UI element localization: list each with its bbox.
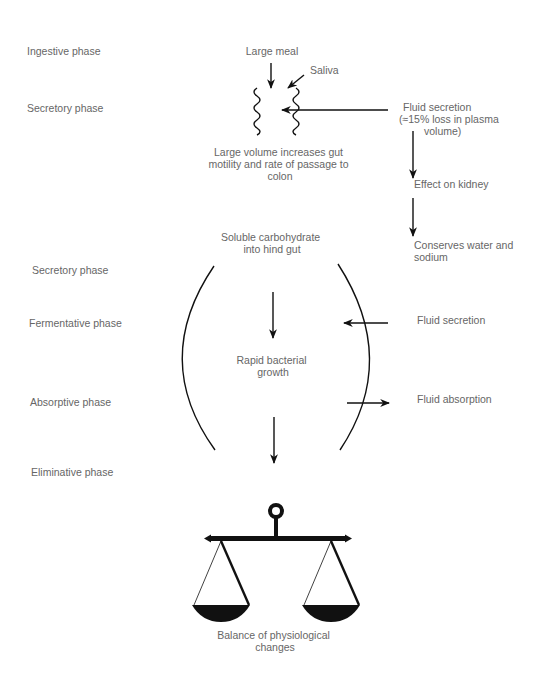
saliva-arrow xyxy=(288,75,304,88)
large-volume-label: Large volume increases gut motility and … xyxy=(208,146,351,182)
conserves-label: Conserves water and sodium xyxy=(414,239,516,263)
fluid-absorption-label: Fluid absorption xyxy=(417,393,492,405)
phase-label-absorptive: Absorptive phase xyxy=(30,396,111,408)
balance-label: Balance of physiological changes xyxy=(217,629,333,653)
fluid-secretion-top-label: Fluid secretion (≈15% loss in plasma vol… xyxy=(399,101,502,137)
soluble-carbohydrate-label: Soluble carbohydrate into hind gut xyxy=(221,231,323,255)
hindgut-wall-right xyxy=(338,264,370,450)
phase-label-secretory-1: Secretory phase xyxy=(27,102,104,114)
gut-wall-right-icon xyxy=(293,88,299,135)
hindgut-wall-left xyxy=(182,266,215,450)
effect-on-kidney-label: Effect on kidney xyxy=(414,178,489,190)
phase-label-secretory-2: Secretory phase xyxy=(32,264,109,276)
large-meal-label: Large meal xyxy=(246,45,299,57)
rapid-growth-label: Rapid bacterial growth xyxy=(237,354,310,378)
phase-label-eliminative: Eliminative phase xyxy=(31,466,113,478)
gut-wall-left-icon xyxy=(254,88,260,135)
balance-scale-icon xyxy=(192,505,360,622)
phase-label-fermentative: Fermentative phase xyxy=(29,317,122,329)
phase-label-ingestive: Ingestive phase xyxy=(27,45,101,57)
digestion-diagram: Ingestive phase Secretory phase Secretor… xyxy=(0,0,534,677)
saliva-label: Saliva xyxy=(310,64,339,76)
fluid-secretion-mid-label: Fluid secretion xyxy=(417,314,485,326)
